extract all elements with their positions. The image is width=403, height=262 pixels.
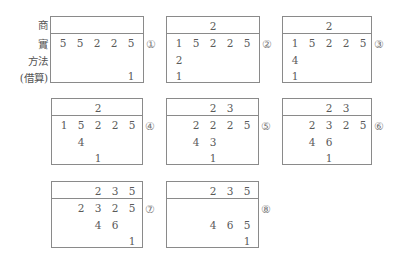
method-digit: 4 xyxy=(289,54,301,66)
borrow-digit: 1 xyxy=(92,152,104,164)
dividend-digit: 5 xyxy=(190,37,202,49)
quotient-digit: 3 xyxy=(109,185,121,197)
method-digit: 3 xyxy=(207,136,219,148)
dividend-digit: 2 xyxy=(340,37,352,49)
quotient-divider xyxy=(167,115,258,116)
board-step-5: 232225431 xyxy=(166,98,259,165)
dividend-digit: 5 xyxy=(241,37,253,49)
step-marker: ⑥ xyxy=(374,120,384,133)
quotient-digit: 2 xyxy=(92,185,104,197)
dividend-digit: 5 xyxy=(74,37,86,49)
quotient-digit: 3 xyxy=(340,102,352,114)
dividend-digit: 1 xyxy=(289,37,301,49)
dividend-digit: 2 xyxy=(91,37,103,49)
borrow-digit: 1 xyxy=(323,152,335,164)
quotient-digit: 2 xyxy=(207,102,219,114)
step-marker: ⑦ xyxy=(145,203,155,216)
quotient-divider xyxy=(52,198,142,199)
borrow-digit: 1 xyxy=(173,70,185,82)
quotient-digit: 3 xyxy=(224,185,236,197)
step-marker: ④ xyxy=(145,120,155,133)
dividend-digit: 5 xyxy=(357,119,369,131)
method-digit: 4 xyxy=(190,136,202,148)
board-step-7: 2352325461 xyxy=(51,181,143,248)
dividend-digit: 2 xyxy=(92,119,104,131)
quotient-digit: 2 xyxy=(207,185,219,197)
step-marker: ① xyxy=(146,38,156,51)
borrow-digit: 1 xyxy=(241,235,253,247)
label-divisor-method: 方法 xyxy=(28,53,48,68)
dividend-digit: 5 xyxy=(126,202,138,214)
dividend-digit: 2 xyxy=(190,119,202,131)
quotient-digit: 5 xyxy=(126,185,138,197)
method-digit: 4 xyxy=(92,219,104,231)
dividend-digit: 2 xyxy=(207,119,219,131)
board-step-3: 21522541 xyxy=(282,16,372,83)
dividend-digit: 2 xyxy=(224,119,236,131)
quotient-digit: 5 xyxy=(241,185,253,197)
board-step-6: 232325461 xyxy=(282,98,372,165)
borrow-digit: 1 xyxy=(126,235,138,247)
dividend-digit: 2 xyxy=(207,37,219,49)
method-digit: 4 xyxy=(75,136,87,148)
method-digit: 4 xyxy=(207,219,219,231)
label-borrowed: (借算) xyxy=(20,70,48,85)
dividend-digit: 2 xyxy=(109,202,121,214)
method-digit: 4 xyxy=(306,136,318,148)
dividend-digit: 3 xyxy=(323,119,335,131)
dividend-digit: 5 xyxy=(241,119,253,131)
method-digit: 6 xyxy=(323,136,335,148)
dividend-digit: 5 xyxy=(357,37,369,49)
dividend-digit: 5 xyxy=(126,119,138,131)
dividend-digit: 5 xyxy=(125,37,137,49)
method-digit: 2 xyxy=(173,54,185,66)
dividend-digit: 2 xyxy=(109,119,121,131)
step-marker: ③ xyxy=(374,38,384,51)
borrow-digit: 1 xyxy=(125,70,137,82)
quotient-divider xyxy=(52,115,142,116)
board-step-1: 552251 xyxy=(50,16,144,83)
dividend-digit: 1 xyxy=(173,37,185,49)
board-step-2: 21522521 xyxy=(166,16,260,83)
step-marker: ⑧ xyxy=(261,203,271,216)
dividend-digit: 2 xyxy=(323,37,335,49)
quotient-digit: 3 xyxy=(224,102,236,114)
quotient-divider xyxy=(167,33,259,34)
dividend-digit: 2 xyxy=(108,37,120,49)
method-digit: 6 xyxy=(109,219,121,231)
dividend-digit: 3 xyxy=(92,202,104,214)
dividend-digit: 5 xyxy=(306,37,318,49)
dividend-digit: 2 xyxy=(75,202,87,214)
quotient-digit: 2 xyxy=(323,20,335,32)
board-step-4: 21522541 xyxy=(51,98,143,165)
borrow-digit: 1 xyxy=(207,152,219,164)
dividend-digit: 2 xyxy=(224,37,236,49)
method-digit: 5 xyxy=(241,219,253,231)
dividend-digit: 5 xyxy=(75,119,87,131)
step-marker: ⑤ xyxy=(261,120,271,133)
quotient-divider xyxy=(51,33,143,34)
quotient-divider xyxy=(283,33,371,34)
method-digit: 6 xyxy=(224,219,236,231)
label-dividend: 實 xyxy=(38,36,48,51)
label-quotient: 商 xyxy=(38,17,48,32)
dividend-digit: 2 xyxy=(340,119,352,131)
quotient-digit: 2 xyxy=(323,102,335,114)
quotient-divider xyxy=(167,198,258,199)
dividend-digit: 5 xyxy=(57,37,69,49)
quotient-digit: 2 xyxy=(207,20,219,32)
borrow-digit: 1 xyxy=(289,70,301,82)
dividend-digit: 1 xyxy=(58,119,70,131)
step-marker: ② xyxy=(262,38,272,51)
quotient-divider xyxy=(283,115,371,116)
board-step-8: 2354651 xyxy=(166,181,259,248)
dividend-digit: 2 xyxy=(306,119,318,131)
quotient-digit: 2 xyxy=(92,102,104,114)
